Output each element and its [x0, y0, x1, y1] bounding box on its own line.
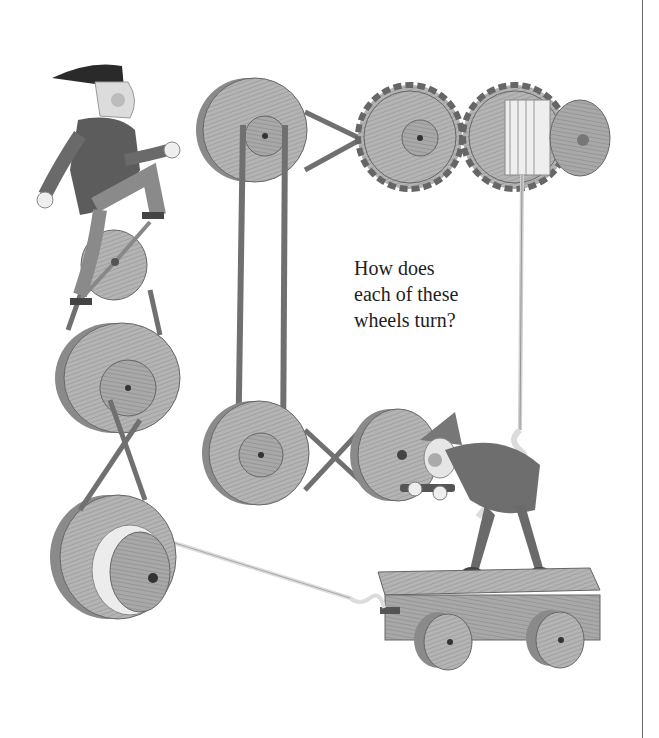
- wheels-illustration: [0, 0, 659, 738]
- top-left-pulley: [196, 78, 307, 182]
- question-line-2: each of these: [354, 281, 494, 307]
- bottom-middle-left-pulley: [202, 401, 309, 505]
- question-text: How does each of these wheels turn?: [354, 255, 494, 333]
- right-gear-with-spool: [463, 85, 610, 189]
- left-gear: [358, 85, 462, 189]
- wagon-cart: [378, 568, 600, 670]
- book-page: How does each of these wheels turn?: [0, 0, 659, 738]
- question-line-1: How does: [354, 255, 494, 281]
- bottom-left-spool-pulley: [50, 495, 176, 619]
- page-edge-divider: [642, 0, 643, 738]
- question-line-3: wheels turn?: [354, 307, 494, 333]
